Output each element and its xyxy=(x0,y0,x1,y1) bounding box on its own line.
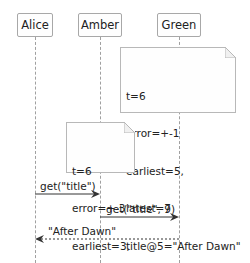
message-label-after-dawn: "After Dawn" xyxy=(48,225,116,237)
message-arrows xyxy=(0,0,250,263)
message-label-get-title: get("title") xyxy=(40,180,96,192)
message-label-get-title-9: get("title", 9) xyxy=(106,203,175,215)
